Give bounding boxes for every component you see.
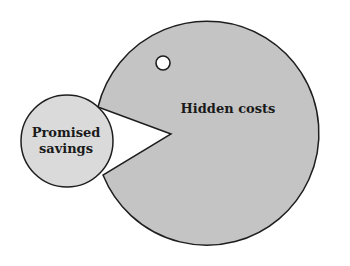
pacman-eye-icon bbox=[156, 56, 170, 70]
pacman-diagram: Hidden costs Promised savings bbox=[0, 0, 350, 266]
promised-savings-label-line2: savings bbox=[39, 141, 93, 156]
hidden-costs-label: Hidden costs bbox=[181, 101, 276, 116]
hidden-costs-pacman bbox=[98, 21, 319, 245]
promised-savings-label-line1: Promised bbox=[32, 125, 101, 140]
